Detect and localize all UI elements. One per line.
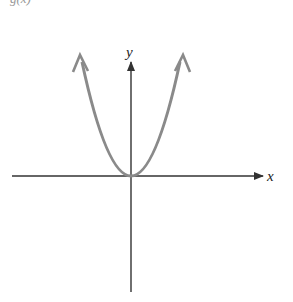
- parabola-graph: [0, 0, 293, 302]
- curve-arrow-left-icon: [73, 55, 88, 72]
- x-axis-label: x: [267, 168, 274, 185]
- y-axis-label: y: [126, 44, 133, 61]
